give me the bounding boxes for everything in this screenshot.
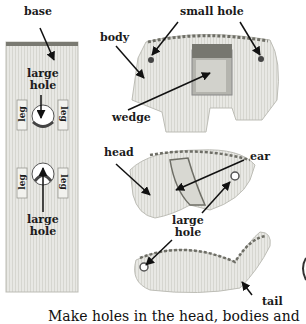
label-body: body bbox=[100, 32, 129, 44]
label-small-hole: small hole bbox=[180, 6, 244, 18]
label-tail: tail bbox=[262, 296, 283, 308]
label-leg: leg bbox=[58, 174, 70, 189]
label-ear: ear bbox=[250, 151, 270, 163]
label-large-hole-head: large hole bbox=[172, 215, 204, 239]
label-head: head bbox=[104, 147, 134, 159]
small-hole bbox=[148, 57, 154, 63]
head-piece bbox=[130, 150, 255, 218]
large-hole bbox=[231, 172, 239, 180]
small-hole bbox=[258, 56, 264, 62]
label-large-hole-bottom: large hole bbox=[27, 214, 59, 238]
label-large-hole-top: large hole bbox=[27, 68, 59, 92]
label-leg: leg bbox=[16, 174, 28, 189]
label-leg: leg bbox=[16, 106, 28, 121]
label-leg: leg bbox=[58, 106, 70, 121]
tail-piece bbox=[135, 232, 271, 293]
label-wedge: wedge bbox=[112, 112, 151, 124]
label-base: base bbox=[24, 6, 52, 18]
instruction-caption: Make holes in the head, bodies and bbox=[48, 308, 300, 324]
